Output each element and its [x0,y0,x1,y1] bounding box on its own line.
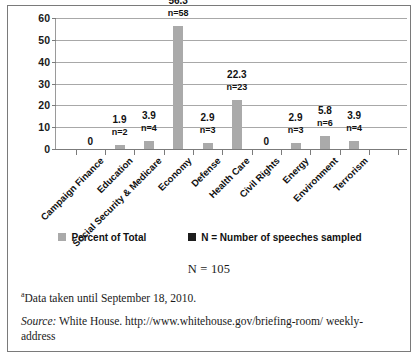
bar-group: 0 [76,18,105,149]
bar-n-label: n=6 [317,118,333,128]
y-tick-label-10: 10 [38,121,50,133]
y-tick-label-40: 40 [38,56,50,68]
source-line: Source: White House. http://www.whitehou… [21,314,397,344]
bar-zero-label: 0 [87,136,93,147]
bar-value-label: 5.8 [318,105,332,116]
bar-value-label: 1.9 [113,114,127,125]
bar-value-label: 56.3 [168,0,187,6]
y-tick-label-30: 30 [38,78,50,90]
y-tick-label-0: 0 [44,143,50,155]
x-axis-labels: Campaign FinanceEducationSocial Security… [55,155,407,225]
legend-label-n: N = Number of speeches sampled [201,232,361,243]
source-label: Source: [21,315,56,327]
legend-item-percent: Percent of Total [58,232,146,243]
footnote: aData taken until September 18, 2010. [21,290,397,305]
bar-value-label: 3.9 [347,110,361,121]
legend-swatch-gray-icon [58,233,66,241]
footnote-text: Data taken until September 18, 2010. [25,292,197,304]
bar-n-label: n=58 [168,8,189,18]
figure-container: 0102030405060 01.9n=23.9n=456.3n=582.9n=… [0,0,420,363]
bar-value-label: 2.9 [289,112,303,123]
notes-block: N = 105 aData taken until September 18, … [7,252,411,344]
legend-swatch-black-icon [188,233,196,241]
total-n-annotation: N = 105 [21,262,397,277]
bar-chart: 0102030405060 01.9n=23.9n=456.3n=582.9n=… [0,0,420,250]
y-tick-label-50: 50 [38,34,50,46]
legend-label-percent: Percent of Total [71,232,146,243]
legend-item-n: N = Number of speeches sampled [188,232,361,243]
y-tick-label-20: 20 [38,99,50,111]
source-text: White House. http://www.whitehouse.gov/b… [21,315,363,342]
chart-legend: Percent of Total N = Number of speeches … [0,228,420,246]
y-tick-label-60: 60 [38,12,50,24]
